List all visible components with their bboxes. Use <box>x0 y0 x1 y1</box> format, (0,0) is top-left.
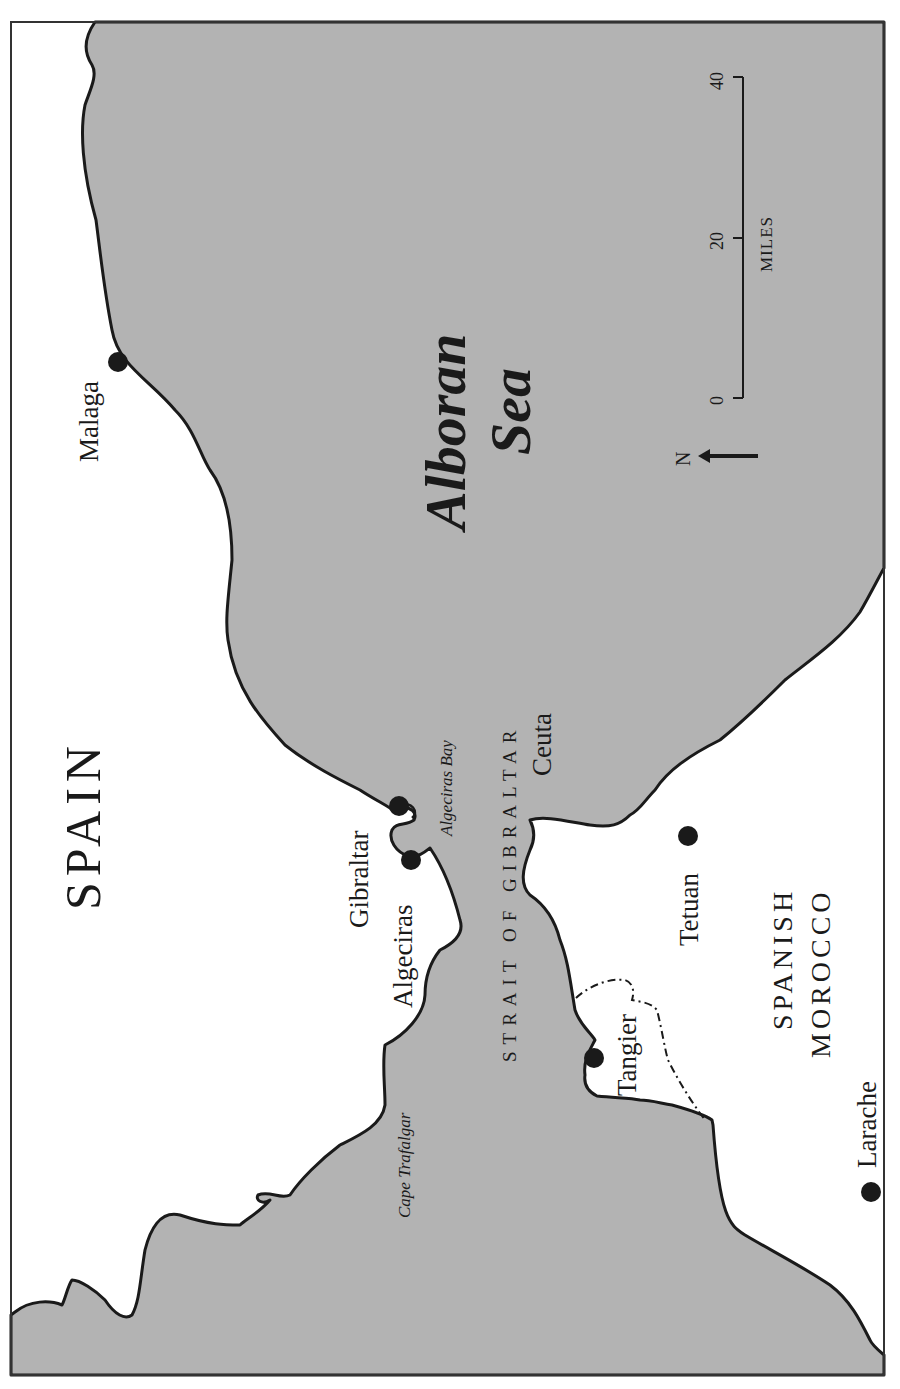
city-label-tangier: Tangier <box>612 1014 642 1096</box>
strait-label: STRAIT OF GIBRALTAR <box>499 724 520 1062</box>
cape-label: Cape Trafalgar <box>395 1112 414 1218</box>
bay-label: Algeciras Bay <box>437 740 456 837</box>
map-canvas: SPAIN SPANISH MOROCCO Alboran Sea STRAIT… <box>0 0 900 1389</box>
north-arrow-label: N <box>672 452 694 466</box>
scale-unit-label: MILES <box>757 216 776 272</box>
country-label-morocco-line1: SPANISH <box>767 888 798 1030</box>
sea-label-sea: Sea <box>478 368 543 455</box>
city-dot-algeciras[interactable] <box>401 850 421 870</box>
city-label-algeciras: Algeciras <box>388 905 418 1008</box>
city-dot-larache[interactable] <box>861 1182 881 1202</box>
city-dot-gibraltar[interactable] <box>389 796 409 816</box>
country-label-spain: SPAIN <box>55 740 111 910</box>
city-label-ceuta: Ceuta <box>527 713 557 776</box>
country-label-morocco-line2: MOROCCO <box>805 888 836 1058</box>
city-label-larache: Larache <box>852 1081 882 1168</box>
city-label-gibraltar: Gibraltar <box>344 831 374 928</box>
scale-tick-40: 40 <box>707 72 727 90</box>
city-label-malaga: Malaga <box>74 381 104 462</box>
city-dot-tangier[interactable] <box>584 1048 604 1068</box>
scale-tick-20: 20 <box>707 232 727 250</box>
city-label-tetuan: Tetuan <box>674 872 704 946</box>
sea-label-alboran: Alboran <box>413 333 478 533</box>
scale-tick-0: 0 <box>707 396 727 405</box>
city-dot-tetuan[interactable] <box>678 826 698 846</box>
city-dot-malaga[interactable] <box>108 352 128 372</box>
